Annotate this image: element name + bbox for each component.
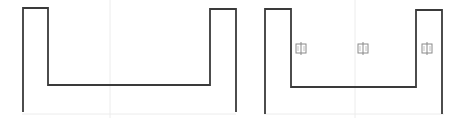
- diagram-canvas: [0, 0, 465, 118]
- u-channel-outline: [23, 8, 236, 112]
- door-icon: [358, 42, 368, 55]
- right-u-profile: [240, 0, 465, 118]
- left-u-profile-panel: [0, 0, 240, 118]
- right-u-profile-panel: [240, 0, 465, 118]
- u-channel-outline: [265, 9, 442, 114]
- left-u-profile: [0, 0, 240, 118]
- door-icon: [296, 42, 306, 55]
- door-icon: [422, 42, 432, 55]
